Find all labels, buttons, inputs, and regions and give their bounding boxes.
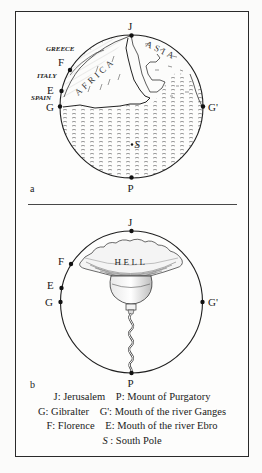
point-j-label-b: J xyxy=(128,216,133,228)
legend-row: S : South Pole xyxy=(15,434,249,449)
point-f-label-b: F xyxy=(58,255,64,267)
legend-item-purgatory: P: Mount of Purgatory xyxy=(116,390,211,405)
point-f-label: F xyxy=(58,56,64,68)
point-g-dot xyxy=(58,104,62,108)
point-g-label-b: G xyxy=(45,296,53,308)
hell-funnel xyxy=(110,276,152,304)
hell-label: HELL xyxy=(115,257,148,267)
point-g-prime-dot xyxy=(201,104,205,108)
panel-a-label: a xyxy=(30,183,35,194)
point-g-label: G xyxy=(46,101,54,113)
legend-item-ebro: E: Mouth of the river Ebro xyxy=(105,419,217,434)
point-e-label: E xyxy=(47,84,54,96)
point-e-dot-b xyxy=(59,286,63,290)
point-f-dot xyxy=(68,68,72,72)
point-e-dot xyxy=(59,89,63,93)
point-j-dot-b xyxy=(129,229,133,233)
legend-row: F: Florence E: Mouth of the river Ebro xyxy=(15,419,249,434)
legend-row: G: Gibralter G': Mouth of the river Gang… xyxy=(15,405,249,420)
legend-item-south-pole: S : South Pole xyxy=(102,434,161,449)
point-p-label-b: P xyxy=(128,377,134,389)
panel-a-globe: AFRICA ASIA GREECE ITALY SPAIN J P G G' … xyxy=(30,20,218,194)
point-j-label: J xyxy=(128,20,133,32)
point-g-dot-b xyxy=(58,300,62,304)
point-g-prime-dot-b xyxy=(200,300,204,304)
point-f-dot-b xyxy=(69,262,73,266)
point-g-prime-label: G' xyxy=(208,101,218,113)
panel-b-label: b xyxy=(30,379,35,390)
point-e-label-b: E xyxy=(47,279,54,291)
point-s-label: S xyxy=(135,138,141,150)
point-p-dot xyxy=(129,175,133,179)
legend-item-ganges: G': Mouth of the river Ganges xyxy=(100,405,226,420)
legend-item-florence: F: Florence xyxy=(46,419,94,434)
legend-row: J: Jerusalem P: Mount of Purgatory xyxy=(15,390,249,405)
point-p-label: P xyxy=(128,182,134,194)
legend-item-gibralter: G: Gibralter xyxy=(38,405,89,420)
point-g-prime-label-b: G' xyxy=(208,296,218,308)
panel-b-hell: HELL J P G G' F E b xyxy=(30,216,218,390)
legend-item-jerusalem: J: Jerusalem xyxy=(54,390,106,405)
figure-legend: J: Jerusalem P: Mount of Purgatory G: Gi… xyxy=(15,390,249,448)
point-p-dot-b xyxy=(129,371,133,375)
italy-label: ITALY xyxy=(36,72,57,80)
greece-label: GREECE xyxy=(46,45,75,53)
point-s-dot xyxy=(131,143,133,145)
point-j-dot xyxy=(129,33,133,37)
